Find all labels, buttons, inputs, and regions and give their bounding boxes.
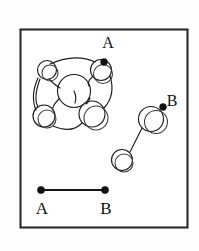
- endpoint-dot-b: [160, 104, 167, 111]
- legend-dot-a: [37, 186, 44, 193]
- legend-label-b: B: [100, 199, 111, 218]
- legend-label-a: A: [36, 199, 49, 218]
- cluster-a-label: A: [102, 34, 114, 51]
- legend-dot-b: [101, 186, 108, 193]
- cluster-b-label: B: [167, 92, 178, 109]
- diagram-canvas: A B A B: [0, 0, 199, 251]
- figure-root: A B A B: [0, 0, 199, 251]
- endpoint-dot-a: [101, 59, 108, 66]
